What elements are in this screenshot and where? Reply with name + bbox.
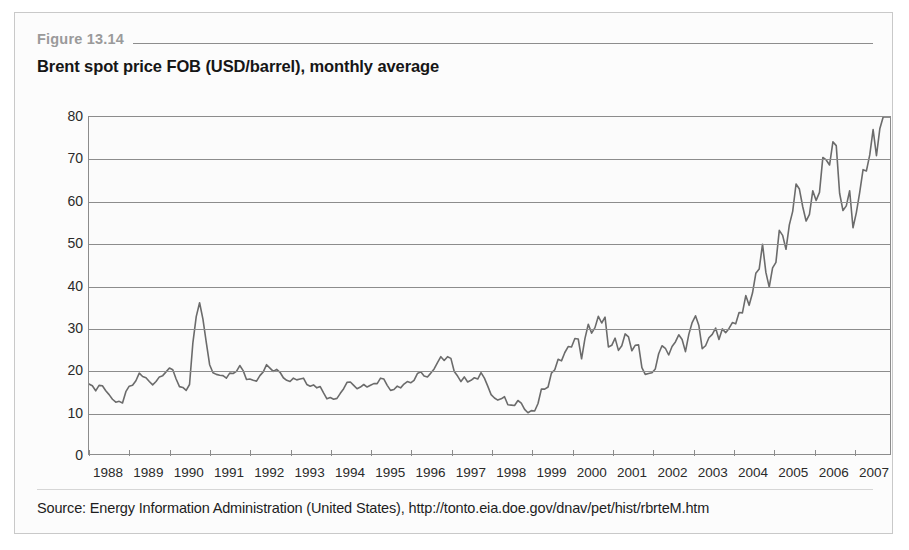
x-axis-tick-label-1997: 1997 <box>456 465 486 480</box>
x-axis-labels: 1988198919901991199219931994199519961997… <box>88 463 891 483</box>
gridline-70 <box>89 159 890 160</box>
x-axis-tick-1990 <box>170 450 171 456</box>
line-series-brent-spot-price <box>89 117 890 454</box>
figure-container: Figure 13.14 Brent spot price FOB (USD/b… <box>14 12 893 534</box>
x-axis-tick-label-2004: 2004 <box>738 465 768 480</box>
gridline-10 <box>89 414 890 415</box>
y-axis-tick-label-0: 0 <box>75 447 83 463</box>
x-axis-tick-2007 <box>855 450 856 456</box>
x-axis-tick-1991 <box>210 450 211 456</box>
x-axis-tick-label-2007: 2007 <box>859 465 889 480</box>
x-axis-tick-label-1993: 1993 <box>295 465 325 480</box>
x-axis-tick-1999 <box>532 450 533 456</box>
y-axis-tick-label-10: 10 <box>67 405 83 421</box>
x-axis-tick-1992 <box>250 450 251 456</box>
x-axis-tick-1998 <box>492 450 493 456</box>
y-axis-tick-label-40: 40 <box>67 278 83 294</box>
x-axis-tick-1994 <box>331 450 332 456</box>
x-axis-tick-label-1988: 1988 <box>93 465 123 480</box>
x-axis-tick-label-1990: 1990 <box>174 465 204 480</box>
x-axis-tick-1995 <box>371 450 372 456</box>
plot-area <box>88 116 891 455</box>
source-note: Source: Energy Information Administratio… <box>37 500 709 516</box>
x-axis-tick-2001 <box>613 450 614 456</box>
x-axis-tick-2005 <box>774 450 775 456</box>
x-axis-tick-2003 <box>694 450 695 456</box>
x-axis-tick-1993 <box>291 450 292 456</box>
x-axis-tick-label-1999: 1999 <box>536 465 566 480</box>
y-axis-tick-label-20: 20 <box>67 362 83 378</box>
y-axis-labels: 01020304050607080 <box>37 91 83 483</box>
x-axis-tick-label-2001: 2001 <box>617 465 647 480</box>
x-axis-tick-2000 <box>573 450 574 456</box>
x-axis-tick-label-1996: 1996 <box>416 465 446 480</box>
x-axis-tick-label-1994: 1994 <box>335 465 365 480</box>
x-axis-tick-label-1995: 1995 <box>375 465 405 480</box>
chart-area: 01020304050607080 1988198919901991199219… <box>37 91 873 483</box>
gridline-60 <box>89 202 890 203</box>
x-axis-tick-label-1998: 1998 <box>496 465 526 480</box>
x-axis-tick-label-2000: 2000 <box>577 465 607 480</box>
x-axis-tick-1997 <box>452 450 453 456</box>
x-axis-tick-1989 <box>129 450 130 456</box>
gridline-30 <box>89 329 890 330</box>
x-axis-tick-1988 <box>89 450 90 456</box>
gridline-20 <box>89 371 890 372</box>
x-axis-tick-2006 <box>815 450 816 456</box>
x-axis-tick-label-1992: 1992 <box>254 465 284 480</box>
x-axis-tick-label-2006: 2006 <box>819 465 849 480</box>
source-divider <box>37 489 873 490</box>
x-axis-tick-label-2002: 2002 <box>657 465 687 480</box>
figure-header: Figure 13.14 <box>37 31 873 53</box>
figure-header-rule <box>133 43 873 44</box>
gridline-50 <box>89 244 890 245</box>
x-axis-tick-label-1989: 1989 <box>133 465 163 480</box>
y-axis-tick-label-30: 30 <box>67 320 83 336</box>
x-axis-tick-2002 <box>653 450 654 456</box>
x-axis-tick-2004 <box>734 450 735 456</box>
gridline-40 <box>89 287 890 288</box>
x-axis-tick-label-2003: 2003 <box>698 465 728 480</box>
x-axis-tick-label-1991: 1991 <box>214 465 244 480</box>
y-axis-tick-label-60: 60 <box>67 193 83 209</box>
y-axis-tick-label-70: 70 <box>67 150 83 166</box>
y-axis-tick-label-80: 80 <box>67 108 83 124</box>
x-axis-tick-label-2005: 2005 <box>778 465 808 480</box>
figure-title: Brent spot price FOB (USD/barrel), month… <box>37 57 439 76</box>
x-axis-tick-1996 <box>411 450 412 456</box>
y-axis-tick-label-50: 50 <box>67 235 83 251</box>
figure-label: Figure 13.14 <box>37 31 124 47</box>
